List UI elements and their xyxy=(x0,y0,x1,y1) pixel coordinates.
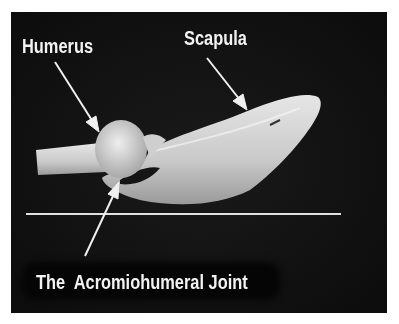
humerus-label: Humerus xyxy=(22,35,93,58)
scapula-arrow-icon xyxy=(207,58,247,110)
humerus-arrow-icon xyxy=(55,62,99,132)
joint-arrow-icon xyxy=(85,182,119,256)
joint-label: The Acromiohumeral Joint xyxy=(36,271,248,294)
scapula-label: Scapula xyxy=(184,27,247,50)
